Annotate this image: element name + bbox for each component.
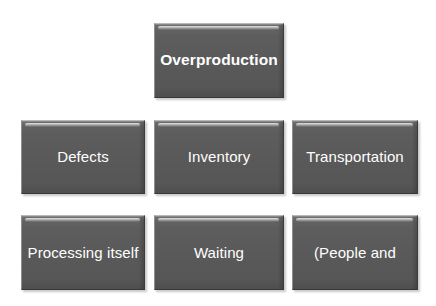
node-inventory-label: Inventory: [185, 149, 254, 165]
node-processing-itself[interactable]: Processing itself: [21, 215, 145, 290]
node-transportation-label: Transportation: [303, 149, 407, 165]
node-movement-label-line1: Movement: [314, 215, 396, 220]
node-processing-itself-label: Processing itself: [25, 245, 142, 261]
waste-diagram-canvas: Overproduction Defects Inventory Transpo…: [0, 0, 436, 306]
node-waiting-label: Waiting: [191, 245, 247, 261]
node-movement[interactable]: Movement (People and material): [292, 215, 418, 290]
node-inventory[interactable]: Inventory: [154, 120, 284, 194]
node-overproduction-label: Overproduction: [157, 52, 281, 68]
node-defects[interactable]: Defects: [21, 120, 145, 194]
node-movement-label-line3: material): [314, 285, 396, 290]
node-movement-label: Movement (People and material): [311, 215, 399, 290]
node-overproduction[interactable]: Overproduction: [154, 23, 284, 98]
node-waiting[interactable]: Waiting: [154, 215, 284, 290]
node-movement-label-line2: (People and: [314, 243, 396, 262]
node-defects-label: Defects: [54, 149, 112, 165]
node-transportation[interactable]: Transportation: [292, 120, 418, 194]
